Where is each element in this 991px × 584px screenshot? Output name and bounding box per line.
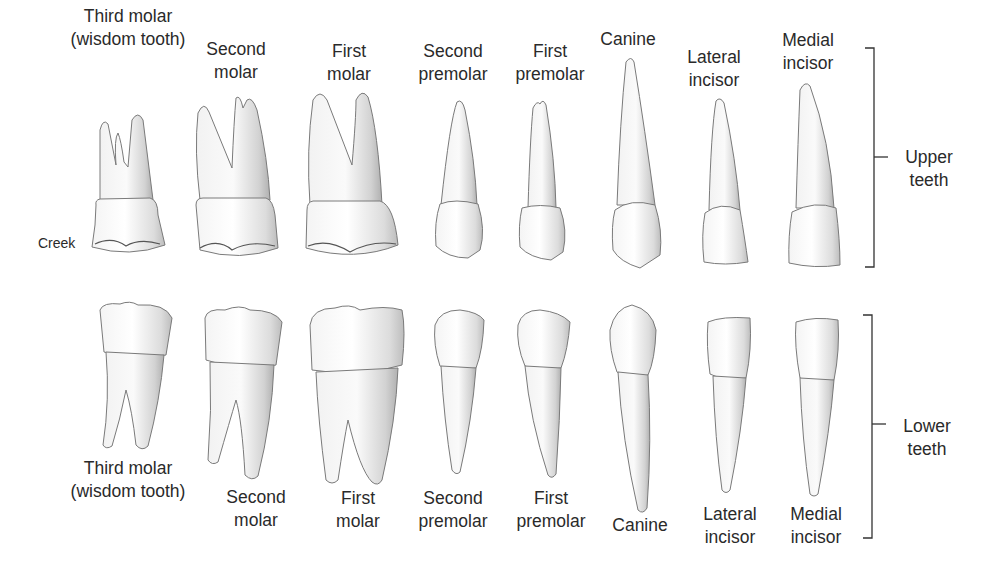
label-line: Lateral xyxy=(687,46,741,69)
tooth-upper-lateral-incisor xyxy=(703,99,748,264)
label-line: Second xyxy=(418,40,487,63)
label-upper-first-molar: Firstmolar xyxy=(327,40,371,86)
tooth-lower-canine xyxy=(610,305,656,512)
label-line: incisor xyxy=(790,526,842,549)
tooth-upper-third-molar xyxy=(92,115,165,252)
label-lower-first-molar: Firstmolar xyxy=(336,487,380,533)
tooth-lower-first-molar xyxy=(310,306,404,484)
label-line: molar xyxy=(226,509,285,532)
label-lower-lateral-incisor: Lateralincisor xyxy=(703,503,757,549)
label-line: incisor xyxy=(687,69,741,92)
label-line: premolar xyxy=(418,63,487,86)
label-line: First xyxy=(336,487,380,510)
label-lower-first-premolar: Firstpremolar xyxy=(516,487,585,533)
label-line: molar xyxy=(327,63,371,86)
tooth-upper-first-premolar xyxy=(519,101,565,260)
tooth-upper-canine xyxy=(612,59,660,269)
label-line: Medial xyxy=(782,29,834,52)
label-line: incisor xyxy=(782,52,834,75)
tooth-upper-second-molar xyxy=(196,97,278,255)
tooth-upper-medial-incisor xyxy=(789,84,840,267)
bracket-lower xyxy=(863,315,886,538)
tooth-lower-medial-incisor xyxy=(796,318,839,496)
bracket-upper xyxy=(865,48,888,267)
label-line: molar xyxy=(336,510,380,533)
tooth-lower-second-molar xyxy=(205,307,282,479)
tooth-upper-first-molar xyxy=(306,93,398,254)
label-line: premolar xyxy=(516,510,585,533)
label-upper-first-premolar: Firstpremolar xyxy=(515,40,584,86)
label-line: premolar xyxy=(515,63,584,86)
label-line: Medial xyxy=(790,503,842,526)
label-line: Second xyxy=(206,38,265,61)
label-line: Third molar xyxy=(71,457,186,480)
label-line: First xyxy=(515,40,584,63)
label-line: Canine xyxy=(600,28,655,51)
lower-teeth-group-label: Lower teeth xyxy=(903,415,951,461)
upper-teeth-label-line1: Upper xyxy=(905,146,953,169)
label-line: Third molar xyxy=(71,5,186,28)
label-lower-medial-incisor: Medialincisor xyxy=(790,503,842,549)
lower-teeth-label-line2: teeth xyxy=(903,438,951,461)
label-line: First xyxy=(327,40,371,63)
upper-teeth-group-label: Upper teeth xyxy=(905,146,953,192)
label-line: incisor xyxy=(703,526,757,549)
label-line: premolar xyxy=(418,510,487,533)
lower-teeth-label-line1: Lower xyxy=(903,415,951,438)
label-upper-medial-incisor: Medialincisor xyxy=(782,29,834,75)
label-upper-canine: Canine xyxy=(600,28,655,51)
creek-annotation: Creek xyxy=(38,235,75,251)
label-line: Lateral xyxy=(703,503,757,526)
label-line: Second xyxy=(418,487,487,510)
label-lower-canine: Canine xyxy=(612,514,667,537)
label-line: (wisdom tooth) xyxy=(71,28,186,51)
label-upper-lateral-incisor: Lateralincisor xyxy=(687,46,741,92)
tooth-lower-first-premolar xyxy=(518,310,570,477)
label-upper-second-premolar: Secondpremolar xyxy=(418,40,487,86)
label-upper-third-molar: Third molar(wisdom tooth) xyxy=(71,5,186,51)
tooth-lower-second-premolar xyxy=(435,310,484,474)
label-line: First xyxy=(516,487,585,510)
label-line: Canine xyxy=(612,514,667,537)
tooth-lower-third-molar xyxy=(100,302,172,449)
label-line: molar xyxy=(206,61,265,84)
label-lower-third-molar: Third molar(wisdom tooth) xyxy=(71,457,186,503)
label-line: Second xyxy=(226,486,285,509)
upper-teeth-label-line2: teeth xyxy=(905,169,953,192)
label-lower-second-molar: Secondmolar xyxy=(226,486,285,532)
tooth-lower-lateral-incisor xyxy=(707,318,750,493)
label-upper-second-molar: Secondmolar xyxy=(206,38,265,84)
tooth-upper-second-premolar xyxy=(436,101,483,258)
label-line: (wisdom tooth) xyxy=(71,480,186,503)
label-lower-second-premolar: Secondpremolar xyxy=(418,487,487,533)
